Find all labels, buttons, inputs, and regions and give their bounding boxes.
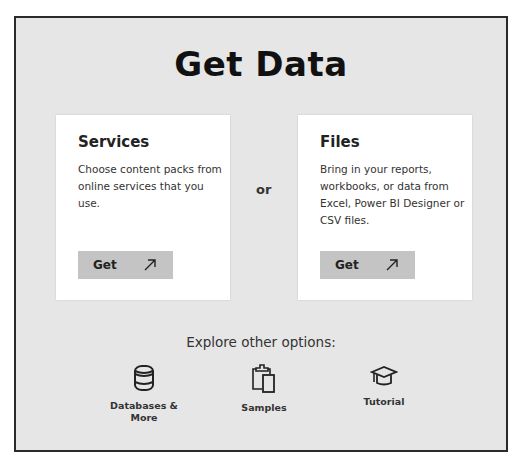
files-description: Bring in your reports, workbooks, or dat… [320,161,470,229]
graduation-cap-icon [370,364,398,388]
database-icon [133,364,155,392]
services-title: Services [78,133,149,151]
option-databases[interactable]: Databases & More [99,364,189,424]
explore-heading: Explore other options: [16,334,506,350]
clipboard-icon [251,364,277,394]
services-get-button[interactable]: Get [78,251,173,279]
or-separator: or [256,182,271,197]
option-label: Samples [219,402,309,414]
arrow-up-right-icon [385,258,399,272]
services-description: Choose content packs from online service… [78,161,228,212]
get-button-label: Get [93,258,117,272]
arrow-up-right-icon [143,258,157,272]
get-button-label: Get [335,258,359,272]
option-tutorial[interactable]: Tutorial [339,364,429,408]
files-title: Files [320,133,360,151]
services-card: Services Choose content packs from onlin… [56,115,230,300]
option-label: Databases & More [99,400,189,424]
option-samples[interactable]: Samples [219,364,309,414]
option-label: Tutorial [339,396,429,408]
files-card: Files Bring in your reports, workbooks, … [298,115,472,300]
page-title: Get Data [16,44,506,84]
files-get-button[interactable]: Get [320,251,415,279]
get-data-panel: Get Data Services Choose content packs f… [14,16,508,452]
